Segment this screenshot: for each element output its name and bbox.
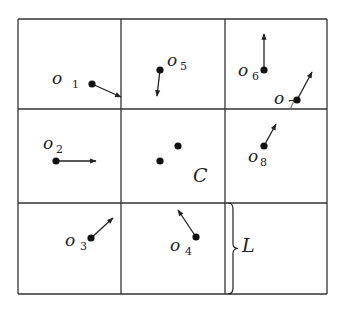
object-o5: o5 bbox=[156, 50, 187, 96]
object-dot bbox=[156, 66, 163, 73]
object-label: o bbox=[170, 235, 180, 255]
object-o1: o1 bbox=[52, 68, 121, 97]
object-dot bbox=[260, 66, 267, 73]
object-o4: o4 bbox=[170, 210, 200, 258]
object-dot bbox=[87, 234, 94, 241]
object-o3: o3 bbox=[65, 218, 113, 253]
object-dot bbox=[88, 80, 95, 87]
cluster-dot bbox=[156, 157, 163, 164]
object-o2: o2 bbox=[43, 133, 96, 165]
object-label-subscript: 5 bbox=[180, 60, 187, 73]
brace-icon bbox=[228, 203, 238, 294]
object-label: o bbox=[65, 230, 75, 250]
velocity-arrow-icon bbox=[264, 124, 276, 146]
object-o7: o7 bbox=[274, 72, 312, 111]
object-label-subscript: 7 bbox=[288, 98, 295, 111]
object-o8: o8 bbox=[248, 124, 276, 169]
object-label: o bbox=[248, 146, 258, 166]
grid-diagram: o1o2o3o4o5o6o7o8 C L bbox=[0, 0, 346, 311]
object-dot bbox=[192, 233, 199, 240]
object-o6: o6 bbox=[238, 34, 268, 83]
cluster-label: C bbox=[193, 164, 208, 186]
object-label: o bbox=[43, 133, 53, 153]
cluster-dot bbox=[174, 142, 181, 149]
velocity-arrow-icon bbox=[178, 210, 196, 237]
velocity-arrow-icon bbox=[157, 70, 160, 96]
velocity-arrow-icon bbox=[92, 84, 121, 97]
object-label-subscript: 4 bbox=[185, 245, 192, 258]
object-dot bbox=[52, 157, 59, 164]
object-label-subscript: 3 bbox=[80, 240, 87, 253]
object-label-subscript: 1 bbox=[72, 78, 79, 91]
brace-label: L bbox=[241, 234, 255, 256]
cluster-c: C bbox=[156, 142, 208, 186]
object-label-subscript: 6 bbox=[252, 70, 259, 83]
velocity-arrow-icon bbox=[297, 72, 312, 100]
brace-l: L bbox=[228, 203, 255, 294]
object-dot bbox=[260, 142, 267, 149]
object-label: o bbox=[52, 68, 62, 88]
object-label: o bbox=[238, 60, 248, 80]
object-label-subscript: 8 bbox=[260, 156, 267, 169]
velocity-arrow-icon bbox=[91, 218, 113, 238]
object-label: o bbox=[167, 50, 177, 70]
object-label: o bbox=[274, 88, 284, 108]
object-label-subscript: 2 bbox=[56, 143, 63, 156]
